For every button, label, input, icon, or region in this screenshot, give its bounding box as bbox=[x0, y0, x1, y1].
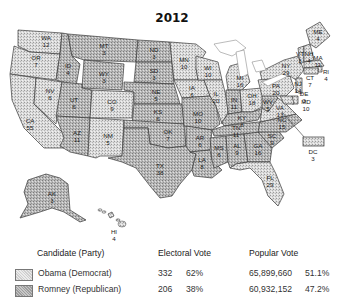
popular-pct: 47.2% bbox=[305, 284, 329, 294]
popular-votes: 65,899,660 bbox=[249, 268, 292, 278]
state-electoral-votes-nm: 5 bbox=[106, 139, 110, 146]
state-electoral-votes-al: 9 bbox=[235, 149, 239, 156]
legend-header-candidate: Candidate (Party) bbox=[37, 248, 104, 258]
state-electoral-votes-wa: 12 bbox=[43, 41, 50, 48]
state-electoral-votes-pa: 20 bbox=[273, 89, 280, 96]
state-fl bbox=[230, 162, 284, 206]
great-lake bbox=[252, 60, 266, 72]
state-electoral-votes-az: 11 bbox=[74, 136, 81, 143]
state-electoral-votes-ak: 3 bbox=[50, 197, 54, 204]
state-electoral-votes-mo: 10 bbox=[195, 117, 202, 124]
state-electoral-votes-co: 9 bbox=[110, 105, 114, 112]
state-electoral-votes-tn: 11 bbox=[233, 131, 240, 138]
us-electoral-map: WA12OR7CA55NV6ID4MT3WY3UT6AZ11CO9NM5ND3S… bbox=[0, 0, 344, 248]
state-electoral-votes-ct: 7 bbox=[308, 81, 312, 88]
legend-header-electoral: Electoral Vote bbox=[158, 248, 211, 258]
republican-swatch bbox=[15, 285, 33, 297]
democrat-swatch bbox=[15, 269, 33, 281]
state-electoral-votes-hi: 4 bbox=[112, 235, 116, 242]
state-electoral-votes-ca: 55 bbox=[27, 124, 34, 131]
electoral-votes: 206 bbox=[158, 284, 172, 294]
electoral-pct: 38% bbox=[186, 284, 203, 294]
state-electoral-votes-mi: 16 bbox=[237, 81, 244, 88]
state-electoral-votes-me: 4 bbox=[316, 35, 320, 42]
hawaii-island bbox=[116, 219, 120, 221]
popular-votes: 60,932,152 bbox=[249, 284, 292, 294]
state-electoral-votes-ut: 6 bbox=[72, 103, 76, 110]
state-electoral-votes-md: 10 bbox=[303, 105, 310, 112]
state-electoral-votes-tx: 38 bbox=[157, 169, 164, 176]
state-electoral-votes-oh: 18 bbox=[249, 99, 256, 106]
state-electoral-votes-sd: 3 bbox=[152, 74, 156, 81]
state-hi bbox=[108, 212, 114, 218]
state-electoral-votes-vt: 3 bbox=[298, 57, 302, 64]
candidate-name: Obama (Democrat) bbox=[38, 268, 112, 278]
state-electoral-votes-in: 11 bbox=[231, 103, 238, 110]
state-electoral-votes-ma: 11 bbox=[315, 61, 322, 68]
state-electoral-votes-nv: 6 bbox=[48, 94, 52, 101]
electoral-pct: 62% bbox=[186, 268, 203, 278]
hawaii-island bbox=[98, 209, 102, 211]
dc-callout-box bbox=[303, 137, 324, 146]
state-electoral-votes-fl: 29 bbox=[267, 181, 274, 188]
state-electoral-votes-ks: 6 bbox=[156, 115, 160, 122]
popular-pct: 51.1% bbox=[305, 268, 329, 278]
state-electoral-votes-ok: 7 bbox=[166, 135, 170, 142]
state-electoral-votes-ky: 8 bbox=[240, 121, 244, 128]
state-electoral-votes-ny: 29 bbox=[283, 69, 290, 76]
hawaii-island bbox=[102, 211, 106, 213]
state-electoral-votes-va: 13 bbox=[277, 111, 284, 118]
legend-header-popular: Popular Vote bbox=[249, 248, 298, 258]
state-electoral-votes-nh: 4 bbox=[307, 57, 311, 64]
state-electoral-votes-wv: 5 bbox=[266, 105, 270, 112]
state-electoral-votes-ri: 4 bbox=[324, 75, 328, 82]
state-electoral-votes-wi: 10 bbox=[205, 71, 212, 78]
state-electoral-votes-nd: 3 bbox=[152, 53, 156, 60]
hawaii-island bbox=[118, 221, 126, 227]
state-electoral-votes-mn: 10 bbox=[181, 63, 188, 70]
state-electoral-votes-dc: 3 bbox=[311, 155, 315, 162]
legend: Candidate (Party) Electoral Vote Popular… bbox=[0, 248, 344, 305]
state-electoral-votes-mt: 3 bbox=[102, 49, 106, 56]
state-electoral-votes-ar: 6 bbox=[198, 141, 202, 148]
state-electoral-votes-id: 4 bbox=[66, 69, 70, 76]
electoral-votes: 332 bbox=[158, 268, 172, 278]
state-electoral-votes-ia: 6 bbox=[190, 91, 194, 98]
state-electoral-votes-sc: 9 bbox=[270, 139, 274, 146]
state-electoral-votes-il: 20 bbox=[213, 97, 220, 104]
state-electoral-votes-nc: 15 bbox=[279, 123, 286, 130]
state-electoral-votes-ne: 5 bbox=[154, 95, 158, 102]
state-electoral-votes-or: 7 bbox=[34, 61, 38, 68]
state-electoral-votes-ga: 16 bbox=[255, 149, 262, 156]
candidate-name: Romney (Republican) bbox=[38, 284, 121, 294]
state-electoral-votes-wy: 3 bbox=[102, 77, 106, 84]
state-electoral-votes-ms: 6 bbox=[217, 151, 221, 158]
state-electoral-votes-la: 8 bbox=[200, 163, 204, 170]
